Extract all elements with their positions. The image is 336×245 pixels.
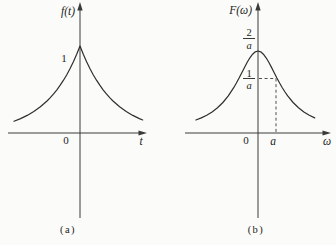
fraction-numerator: 2: [246, 27, 251, 38]
textbook-figure: f(t) 1 0 t (a) F(ω) 2 a 1 a 0 a ω (b): [0, 0, 336, 245]
fraction-numerator: 1: [246, 68, 251, 79]
fraction-two-over-a: 2 a: [243, 27, 255, 51]
fraction-one-over-a: 1 a: [243, 68, 255, 92]
plot-a: f(t) 1 0 t (a): [8, 2, 147, 236]
x-tick-label-a: a: [270, 135, 276, 147]
caption-a: (a): [60, 224, 76, 236]
peak-value-label: 1: [61, 52, 67, 64]
x-axis-label-t: t: [139, 135, 143, 147]
curve-F-of-omega: [196, 51, 315, 120]
figure-canvas: f(t) 1 0 t (a) F(ω) 2 a 1 a 0 a ω (b): [0, 0, 336, 245]
caption-b: (b): [248, 224, 265, 236]
y-axis-label-F-omega: F(ω): [228, 4, 252, 17]
fraction-denominator: a: [246, 40, 251, 51]
fraction-denominator: a: [246, 80, 251, 91]
origin-label-a: 0: [63, 134, 69, 146]
curve-f-of-t: [14, 46, 143, 121]
up-arrowhead-icon: [255, 2, 260, 11]
origin-label-b: 0: [243, 134, 249, 146]
plot-b: F(ω) 2 a 1 a 0 a ω (b): [185, 2, 331, 236]
up-arrowhead-icon: [77, 2, 82, 11]
x-axis-label-omega: ω: [323, 135, 331, 147]
y-axis-label-f-t: f(t): [61, 5, 75, 18]
